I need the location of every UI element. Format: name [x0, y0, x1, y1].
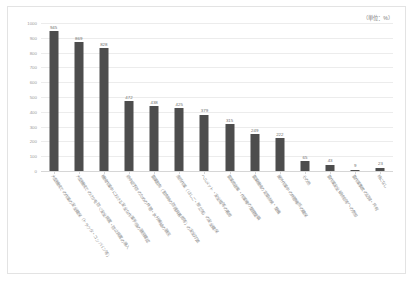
- bar-slot: 65: [292, 23, 317, 171]
- bar-slot: 438: [142, 23, 167, 171]
- bar[interactable]: [124, 101, 133, 171]
- bar-value-label: 65: [303, 155, 308, 160]
- bar[interactable]: [250, 134, 259, 171]
- bar-value-label: 379: [201, 108, 208, 113]
- bar[interactable]: [225, 124, 234, 171]
- bar-slot: 828: [91, 23, 116, 171]
- x-axis-category-label: 農薬散布（散布時の防護具着用等）の安全対策: [149, 174, 200, 244]
- bar[interactable]: [150, 106, 159, 171]
- bar-value-label: 438: [150, 100, 157, 105]
- plot-area: 9458698284724384253793152492226543923: [41, 23, 393, 171]
- bar-slot: 249: [242, 23, 267, 171]
- y-axis-tick-label: 500: [30, 95, 37, 100]
- bar[interactable]: [49, 31, 58, 171]
- chart-frame: （単位：%） 01002003004005006007008009001000 …: [7, 6, 406, 274]
- y-axis-tick-label: 600: [30, 80, 37, 85]
- y-axis-tick-label: 900: [30, 35, 37, 40]
- bar-value-label: 23: [378, 161, 383, 166]
- x-axis-category-label: 高所作業（はしご・脚立等）の安全確保: [175, 174, 219, 234]
- x-axis-category-label: 機械作業中における安全な作業手順の徹底確認: [99, 174, 150, 244]
- y-axis-tick-label: 0: [35, 169, 37, 174]
- x-axis-category-label: 農作業事故の記録・共有: [351, 174, 379, 212]
- x-axis-category-label: 大型機械でのけがを防ぐ安全装置・防止装置の導入: [74, 174, 129, 250]
- x-axis-category-label: 熱中症予防のための休憩・水分補給の徹底: [124, 174, 170, 237]
- bar-slot: 43: [318, 23, 343, 171]
- bar-slot: 23: [368, 23, 393, 171]
- bar[interactable]: [275, 138, 284, 171]
- bar-value-label: 315: [226, 118, 233, 123]
- x-axis-category-label: その他: [300, 174, 310, 186]
- bar[interactable]: [74, 42, 83, 171]
- bar-slot: 9: [343, 23, 368, 171]
- bar-slot: 222: [267, 23, 292, 171]
- x-axis-category-label: 特になし: [376, 174, 389, 189]
- bar-slot: 379: [192, 23, 217, 171]
- bar[interactable]: [200, 115, 209, 171]
- y-axis-tick-label: 400: [30, 109, 37, 114]
- bar[interactable]: [300, 161, 309, 171]
- bar[interactable]: [175, 108, 184, 171]
- bar-slot: 472: [116, 23, 141, 171]
- bar-slot: 425: [167, 23, 192, 171]
- bar-value-label: 9: [354, 163, 356, 168]
- bar-slot: 315: [217, 23, 242, 171]
- x-axis-category-labels: 大型機械での作業の安全確保（トラクタ・コンバイン等）大型機械でのけがを防ぐ安全装…: [41, 174, 393, 269]
- bar-value-label: 425: [176, 102, 183, 107]
- y-axis-tick-label: 1000: [27, 21, 37, 26]
- bar-value-label: 249: [251, 128, 258, 133]
- y-axis-tick-label: 800: [30, 50, 37, 55]
- y-axis-tick-label: 700: [30, 65, 37, 70]
- bar-value-label: 869: [75, 36, 82, 41]
- bar-value-label: 945: [50, 25, 57, 30]
- y-axis-tick-labels: 01002003004005006007008009001000: [8, 23, 39, 171]
- bar-value-label: 222: [276, 132, 283, 137]
- bar-slot: 869: [66, 23, 91, 171]
- y-axis-tick-label: 100: [30, 154, 37, 159]
- bar-value-label: 472: [125, 95, 132, 100]
- bar-series: 9458698284724384253793152492226543923: [41, 23, 393, 171]
- unit-caption: （単位：%）: [363, 14, 393, 21]
- bar-value-label: 828: [100, 42, 107, 47]
- y-axis-tick-label: 200: [30, 139, 37, 144]
- bar[interactable]: [99, 48, 108, 171]
- bar-slot: 945: [41, 23, 66, 171]
- y-axis-tick-label: 300: [30, 124, 37, 129]
- x-axis-category-label: 大型機械での作業の安全確保（トラクタ・コンバイン等）: [49, 174, 111, 260]
- bar-value-label: 43: [328, 158, 333, 163]
